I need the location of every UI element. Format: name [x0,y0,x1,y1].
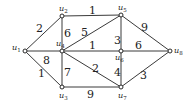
label-u3: u3 [59,91,68,101]
weight-u1-u3: 1 [38,67,45,80]
edges [25,15,170,87]
weight-u4-u7: 2 [92,62,99,75]
weight-u4-u6: 1 [89,39,96,52]
node-u4 [60,49,64,53]
node-labels: u1 u2 u3 u4 u5 u6 u7 u8 [12,3,183,101]
node-u5 [119,13,123,17]
weight-u1-u2: 2 [36,22,43,35]
node-u1 [23,49,27,53]
weight-u5-u6: 3 [114,34,121,47]
node-u7 [119,85,123,89]
weight-u4-u3: 7 [64,66,71,79]
weight-u6-u8: 6 [135,39,142,52]
label-u4: u4 [56,39,65,49]
label-u2: u2 [59,4,68,14]
label-u1: u1 [12,43,21,53]
node-u2 [60,14,64,18]
weight-u2-u5: 1 [89,4,96,17]
weight-u6-u7: 4 [114,66,121,79]
graph-diagram: 2 8 1 1 6 5 1 2 7 9 3 9 6 4 3 u1 u2 u3 u… [0,0,183,106]
weight-u5-u8: 9 [141,21,148,34]
node-u3 [60,85,64,89]
label-u6: u6 [115,53,124,63]
weight-u4-u5: 5 [81,26,88,39]
label-u5: u5 [118,3,127,13]
node-u8 [168,49,172,53]
label-u8: u8 [174,46,183,56]
edge-weights: 2 8 1 1 6 5 1 2 7 9 3 9 6 4 3 [36,4,148,101]
weight-u7-u8: 3 [140,69,147,82]
label-u7: u7 [118,91,127,101]
weight-u2-u4: 6 [64,27,71,40]
weight-u3-u7: 9 [87,88,94,101]
weight-u1-u4: 8 [43,54,50,67]
